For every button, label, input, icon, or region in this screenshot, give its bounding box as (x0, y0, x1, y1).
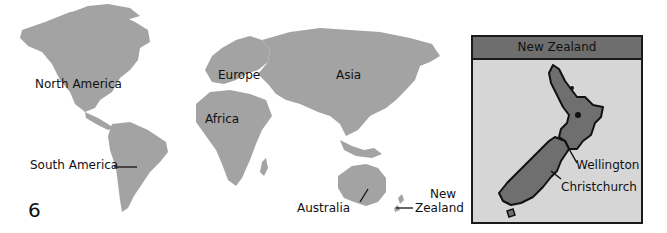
southeast-asia-islands (340, 140, 382, 158)
lake-taupo-dot (575, 112, 581, 118)
madagascar (260, 158, 268, 176)
continents (20, 4, 440, 212)
continent-north-america (20, 10, 150, 112)
label-north-america: North America (35, 78, 122, 90)
label-new-zealand-line1: New (430, 188, 456, 200)
label-africa: Africa (205, 113, 239, 125)
label-australia: Australia (297, 202, 350, 214)
central-america (85, 112, 114, 130)
new-zealand-inset: New Zealand Wellington Christchurch (471, 35, 643, 224)
island-dot (570, 86, 574, 90)
label-south-america: South America (30, 159, 118, 171)
north-island (549, 65, 603, 149)
label-new-zealand-line2: Zealand (415, 202, 464, 214)
south-island (499, 137, 569, 205)
stewart-island (507, 209, 515, 217)
new-zealand-small (394, 194, 404, 212)
city-christchurch: Christchurch (561, 181, 637, 193)
page-number: 6 (28, 198, 41, 222)
city-wellington: Wellington (576, 159, 639, 171)
label-europe: Europe (218, 69, 260, 81)
label-asia: Asia (336, 69, 361, 81)
new-zealand-inset-map (473, 37, 641, 222)
continent-asia (258, 28, 440, 136)
